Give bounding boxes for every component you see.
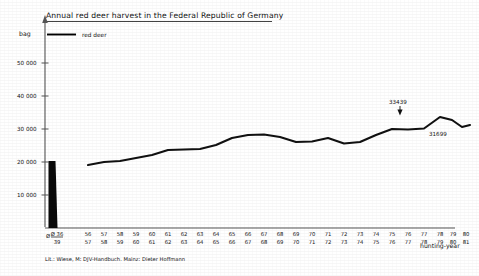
x-tick-top-3: 58 (117, 231, 124, 237)
x-tick-avg-symbol: Ø (46, 233, 50, 239)
annotation-label-31699: 31699 (429, 131, 447, 137)
legend-label-red-deer: red deer (82, 32, 107, 38)
annotation-label-33439: 33439 (389, 99, 407, 105)
y-tick-label-20000: 20 000 (17, 159, 37, 165)
x-tick-top-1: 56 (85, 231, 92, 237)
x-tick-bottom-13: 69 (277, 239, 284, 245)
x-tick-bottom-8: 64 (197, 239, 204, 245)
x-tick-top-6: 61 (165, 231, 172, 237)
x-tick-bottom-15: 71 (309, 239, 316, 245)
x-tick-top-13: 68 (277, 231, 284, 237)
x-tick-top-14: 69 (293, 231, 300, 237)
x-tick-bottom-10: 66 (229, 239, 236, 245)
x-tick-bottom-5: 61 (149, 239, 156, 245)
x-tick-bottom-23: 79 (437, 239, 444, 245)
x-tick-bottom-11: 67 (245, 239, 252, 245)
x-tick-bottom-4: 60 (133, 239, 140, 245)
x-tick-top-12: 67 (261, 231, 268, 237)
x-tick-top-17: 72 (341, 231, 348, 237)
x-tick-top-25: 80 (463, 231, 470, 237)
x-tick-top-22: 77 (421, 231, 428, 237)
y-axis-label: bag (19, 30, 31, 38)
x-tick-top-11: 66 (245, 231, 252, 237)
x-tick-bottom-22: 78 (421, 239, 428, 245)
x-tick-bottom-1: 57 (85, 239, 92, 245)
x-tick-bottom-18: 74 (357, 239, 364, 245)
x-tick-top-24: 79 (450, 231, 457, 237)
x-tick-top-10: 65 (229, 231, 236, 237)
x-tick-top-23: 78 (437, 231, 444, 237)
x-tick-top-19: 74 (373, 231, 380, 237)
x-tick-bottom-25: 81 (463, 239, 470, 245)
x-tick-bottom-17: 73 (341, 239, 348, 245)
x-tick-top-2: 57 (101, 231, 108, 237)
y-tick-label-50000: 50 000 (17, 60, 37, 66)
x-tick-top-20: 75 (389, 231, 396, 237)
x-tick-top-21: 76 (405, 231, 412, 237)
x-tick-top-7: 62 (181, 231, 188, 237)
x-tick-bottom-21: 77 (405, 239, 412, 245)
y-tick-label-10000: 10 000 (17, 192, 37, 198)
x-tick-bottom-16: 72 (325, 239, 332, 245)
x-tick-top-16: 71 (325, 231, 332, 237)
source-note: Lit.: Wiese, M: DJV-Handbuch. Mainz: Die… (45, 256, 185, 263)
x-tick-bottom-2: 58 (101, 239, 108, 245)
x-tick-bottom-19: 75 (373, 239, 380, 245)
x-tick-bottom-12: 68 (261, 239, 268, 245)
x-tick-bottom-14: 70 (293, 239, 300, 245)
x-tick-top-9: 64 (213, 231, 220, 237)
x-tick-top-15: 70 (309, 231, 316, 237)
x-tick-bottom-6: 62 (165, 239, 172, 245)
x-tick-bottom-7: 63 (181, 239, 188, 245)
x-tick-top-4: 59 (133, 231, 140, 237)
chart-title: Annual red deer harvest in the Federal R… (46, 11, 284, 20)
y-tick-label-30000: 30 000 (17, 126, 37, 132)
x-tick-top-8: 63 (197, 231, 204, 237)
x-tick-top-18: 73 (357, 231, 364, 237)
x-tick-bottom-20: 76 (389, 239, 396, 245)
x-tick-bottom-9: 65 (213, 239, 220, 245)
x-tick-top-0: Ø 36 (51, 231, 64, 237)
y-tick-label-40000: 40 000 (17, 93, 37, 99)
x-tick-bottom-0: 39 (54, 239, 61, 245)
annotation-end-31699: 31699 (429, 131, 447, 137)
x-tick-bottom-3: 59 (117, 239, 124, 245)
x-tick-bottom-24: 80 (450, 239, 457, 245)
red-deer-harvest-line-chart: Annual red deer harvest in the Federal R… (0, 0, 479, 276)
chart-figure: Annual red deer harvest in the Federal R… (0, 0, 479, 276)
x-tick-top-5: 60 (149, 231, 156, 237)
